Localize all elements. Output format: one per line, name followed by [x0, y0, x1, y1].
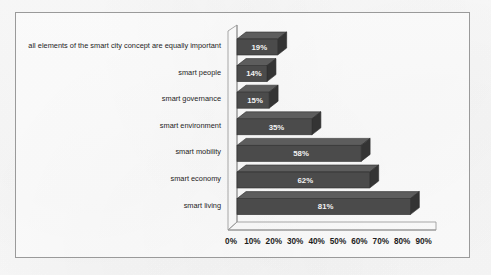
bar-group: 62% — [237, 165, 379, 188]
chart-border-frame: 19%14%15%35%58%62%81% all elements of th… — [15, 12, 470, 258]
axis-tick-label: 40% — [308, 237, 325, 246]
axis-tick-label: 80% — [394, 237, 411, 246]
bar-value-label: 14% — [246, 69, 262, 78]
bar-group: 81% — [237, 192, 419, 215]
category-label: smart mobility — [175, 147, 221, 156]
category-label: smart people — [178, 68, 221, 77]
axis-tick-label: 60% — [351, 237, 368, 246]
bar-value-label: 81% — [318, 202, 334, 211]
axis-tick-label: 10% — [244, 237, 261, 246]
chart-screenshot: 19%14%15%35%58%62%81% all elements of th… — [0, 0, 491, 275]
axis-tick-label: 90% — [415, 237, 432, 246]
category-axis-labels: all elements of the smart city concept a… — [28, 41, 221, 210]
bar-top-face — [237, 165, 379, 172]
bar-value-label: 58% — [293, 149, 309, 158]
bar-value-label: 35% — [269, 123, 285, 132]
bar-value-label: 19% — [252, 43, 268, 52]
category-label: smart living — [184, 201, 221, 210]
bar-top-face — [237, 192, 419, 199]
axis-tick-label: 30% — [287, 237, 304, 246]
axis-tick-label: 50% — [330, 237, 347, 246]
bar-chart: 19%14%15%35%58%62%81% all elements of th… — [16, 13, 471, 259]
bar-top-face — [237, 138, 370, 145]
category-label: all elements of the smart city concept a… — [28, 41, 221, 50]
category-label: smart governance — [162, 94, 221, 103]
category-label: smart economy — [170, 174, 221, 183]
bar-group: 15% — [237, 85, 278, 108]
category-label: smart environment — [160, 121, 221, 130]
axis-tick-label: 0% — [225, 237, 238, 246]
bar-group: 14% — [237, 59, 276, 82]
bar-top-face — [237, 112, 321, 119]
bar-value-label: 62% — [298, 176, 314, 185]
bar-group: 19% — [237, 32, 287, 55]
bars-layer: 19%14%15%35%58%62%81% — [237, 32, 419, 215]
axis-tick-label: 20% — [266, 237, 283, 246]
value-axis-tick-labels: 0%10%20%30%40%50%60%70%80%90% — [225, 237, 432, 246]
bar-group: 35% — [237, 112, 321, 135]
axis-tick-label: 70% — [373, 237, 390, 246]
bar-group: 58% — [237, 138, 370, 161]
bar-value-label: 15% — [247, 96, 263, 105]
